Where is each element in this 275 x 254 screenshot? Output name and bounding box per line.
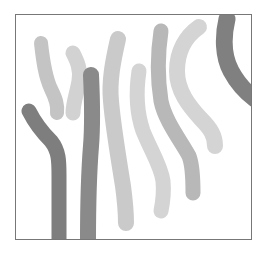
- brush-stroke-s2: [73, 53, 80, 113]
- brush-strokes-artwork: [15, 14, 252, 240]
- image-frame: [15, 14, 252, 240]
- brush-stroke-s8: [177, 27, 215, 146]
- brush-stroke-s3: [29, 111, 59, 240]
- brush-stroke-s9: [224, 19, 252, 99]
- brush-stroke-s1: [41, 43, 57, 113]
- brush-stroke-s5: [110, 39, 126, 223]
- brush-stroke-s4: [88, 75, 92, 240]
